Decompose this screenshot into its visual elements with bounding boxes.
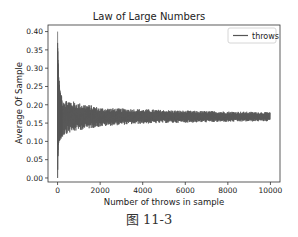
- y-tick-label: 0.35: [26, 46, 43, 55]
- legend: throws: [228, 28, 279, 43]
- legend-label: throws: [252, 32, 279, 41]
- y-tick-label: 0.20: [26, 101, 43, 110]
- figure-caption: 图 11-3: [0, 209, 298, 228]
- law-of-large-numbers-chart: Law of Large Numbers 0.000.050.100.150.2…: [0, 0, 298, 237]
- chart-title: Law of Large Numbers: [93, 11, 206, 22]
- y-tick-label: 0.40: [26, 27, 43, 36]
- x-tick-label: 2000: [91, 186, 110, 195]
- x-tick-label: 10000: [258, 186, 282, 195]
- y-axis-label: Average Of Sample: [14, 62, 24, 144]
- y-tick-label: 0.00: [26, 174, 43, 183]
- x-tick-label: 4000: [133, 186, 152, 195]
- x-tick-label: 8000: [218, 186, 237, 195]
- y-tick-label: 0.15: [26, 119, 43, 128]
- axes-frame: [48, 25, 280, 182]
- y-tick-label: 0.05: [26, 155, 43, 164]
- y-tick-label: 0.25: [26, 82, 43, 91]
- x-tick-label: 0: [55, 186, 60, 195]
- x-axis-label: Number of throws in sample: [104, 197, 224, 207]
- x-axis: 0200040006000800010000: [55, 182, 282, 195]
- x-tick-label: 6000: [176, 186, 195, 195]
- series-line-throws: [58, 32, 271, 178]
- y-axis: 0.000.050.100.150.200.250.300.350.40: [26, 27, 48, 182]
- plot-area: [58, 32, 271, 178]
- y-tick-label: 0.10: [26, 137, 43, 146]
- y-tick-label: 0.30: [26, 64, 43, 73]
